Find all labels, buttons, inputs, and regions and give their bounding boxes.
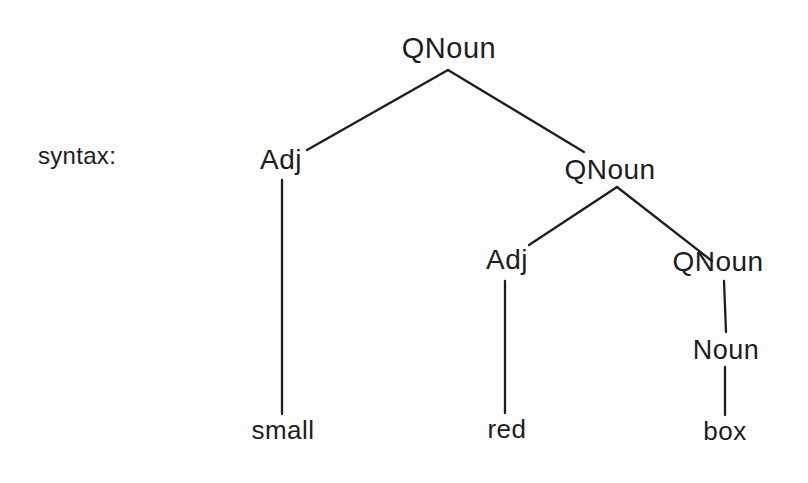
edge-qnoun-right-to-noun xyxy=(724,281,726,332)
edge-root-to-adj-left xyxy=(307,70,448,150)
edge-root-to-qnoun-mid xyxy=(448,70,584,152)
syntax-caption: syntax: xyxy=(38,144,116,168)
tree-leaf-box: box xyxy=(703,418,746,444)
tree-node-adj-left: Adj xyxy=(260,146,302,174)
tree-node-root-qnoun: QNoun xyxy=(402,34,496,63)
syntax-tree-page: syntax: QNoun Adj QNoun Adj QNoun Noun s… xyxy=(0,0,808,483)
tree-node-adj-inner: Adj xyxy=(486,246,528,274)
tree-node-qnoun-right: QNoun xyxy=(672,248,763,276)
tree-leaf-small: small xyxy=(251,417,314,443)
edge-qnoun-mid-to-adj-inner xyxy=(529,187,617,245)
tree-leaf-red: red xyxy=(487,416,526,442)
tree-edges xyxy=(0,0,808,483)
tree-node-qnoun-mid: QNoun xyxy=(564,156,655,184)
tree-node-noun: Noun xyxy=(693,337,760,364)
